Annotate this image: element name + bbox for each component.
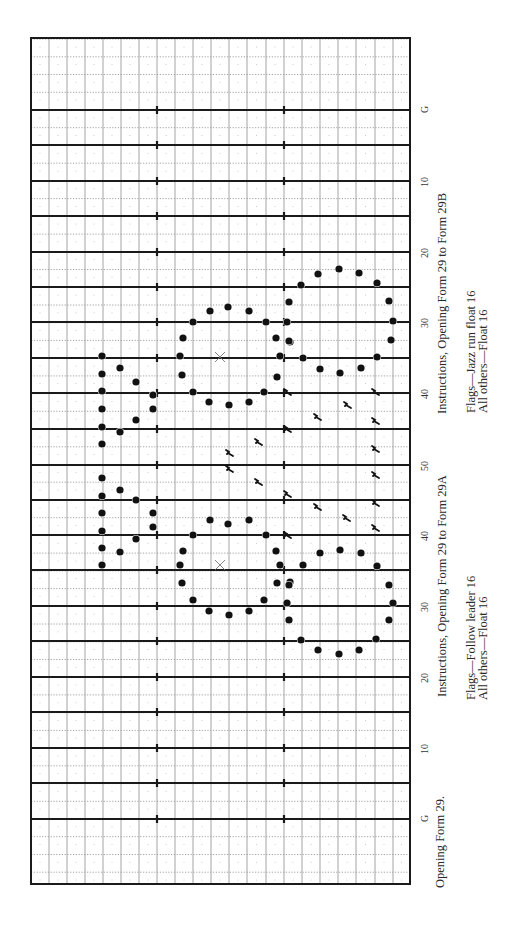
- cell-dot: [112, 224, 113, 225]
- cell-dot: [365, 348, 366, 349]
- cell-dot: [166, 685, 167, 686]
- cell-dot: [112, 188, 113, 189]
- cell-dot: [112, 348, 113, 349]
- cell-dot: [166, 348, 167, 349]
- cell-dot: [112, 419, 113, 420]
- cell-dot: [112, 490, 113, 491]
- cell-dot: [401, 649, 402, 650]
- cell-dot: [384, 330, 385, 331]
- cell-dot: [329, 82, 330, 83]
- cell-dot: [365, 543, 366, 544]
- cell-dot: [94, 490, 95, 491]
- cell-dot: [384, 82, 385, 83]
- cell-dot: [401, 472, 402, 473]
- band-member-dot: [389, 599, 396, 606]
- cell-dot: [238, 809, 239, 810]
- cell-dot: [166, 525, 167, 526]
- cell-dot: [365, 578, 366, 579]
- cell-dot: [202, 738, 203, 739]
- cell-dot: [401, 454, 402, 455]
- cell-dot: [166, 82, 167, 83]
- cell-dot: [384, 383, 385, 384]
- cell-dot: [347, 525, 348, 526]
- cell-dot: [130, 100, 131, 101]
- cell-dot: [365, 631, 366, 632]
- cell-dot: [76, 578, 77, 579]
- cell-dot: [365, 809, 366, 810]
- cell-dot: [166, 241, 167, 242]
- cell-dot: [384, 365, 385, 366]
- cell-dot: [130, 224, 131, 225]
- cell-dot: [256, 117, 257, 118]
- cell-dot: [275, 472, 276, 473]
- cell-dot: [293, 826, 294, 827]
- cell-dot: [94, 738, 95, 739]
- cell-dot: [256, 436, 257, 437]
- cell-dot: [329, 578, 330, 579]
- cell-dot: [329, 755, 330, 756]
- cell-dot: [166, 312, 167, 313]
- band-member-dot: [335, 265, 342, 272]
- band-member-dot: [225, 401, 232, 408]
- cell-dot: [166, 844, 167, 845]
- cell-dot: [238, 826, 239, 827]
- cell-dot: [184, 507, 185, 508]
- cell-dot: [130, 241, 131, 242]
- cell-dot: [184, 720, 185, 721]
- band-member-dot: [273, 373, 280, 380]
- cell-dot: [94, 365, 95, 366]
- cell-dot: [202, 401, 203, 402]
- cell-dot: [202, 419, 203, 420]
- cell-dot: [384, 525, 385, 526]
- cell-dot: [202, 241, 203, 242]
- cell-dot: [238, 738, 239, 739]
- cell-dot: [347, 419, 348, 420]
- cell-dot: [256, 330, 257, 331]
- cell-dot: [256, 507, 257, 508]
- cell-dot: [401, 188, 402, 189]
- cell-dot: [166, 330, 167, 331]
- cell-dot: [166, 826, 167, 827]
- cell-dot: [311, 312, 312, 313]
- cell-dot: [293, 560, 294, 561]
- cell-dot: [275, 525, 276, 526]
- cell-dot: [347, 82, 348, 83]
- cell-dot: [166, 365, 167, 366]
- cell-dot: [148, 773, 149, 774]
- cell-dot: [76, 82, 77, 83]
- cell-dot: [166, 277, 167, 278]
- cell-dot: [76, 720, 77, 721]
- cell-dot: [238, 383, 239, 384]
- cell-dot: [94, 667, 95, 668]
- cell-dot: [384, 844, 385, 845]
- cell-dot: [130, 773, 131, 774]
- cell-dot: [347, 153, 348, 154]
- cell-dot: [347, 383, 348, 384]
- cell-dot: [58, 312, 59, 313]
- cell-dot: [275, 862, 276, 863]
- cell-dot: [130, 383, 131, 384]
- cell-dot: [112, 82, 113, 83]
- cell-dot: [58, 649, 59, 650]
- cell-dot: [76, 295, 77, 296]
- cell-dot: [148, 135, 149, 136]
- cell-dot: [166, 436, 167, 437]
- cell-dot: [401, 490, 402, 491]
- cell-dot: [329, 365, 330, 366]
- cell-dot: [130, 46, 131, 47]
- cell-dot: [112, 312, 113, 313]
- cell-dot: [365, 667, 366, 668]
- cell-dot: [58, 507, 59, 508]
- band-member-dot: [245, 307, 252, 314]
- band-member-dot: [98, 352, 105, 359]
- cell-dot: [384, 135, 385, 136]
- cell-dot: [76, 614, 77, 615]
- cell-dot: [275, 419, 276, 420]
- cell-dot: [220, 330, 221, 331]
- cell-dot: [238, 614, 239, 615]
- cell-dot: [148, 277, 149, 278]
- cell-dot: [347, 188, 348, 189]
- cell-dot: [365, 773, 366, 774]
- cell-dot: [311, 614, 312, 615]
- cell-dot: [238, 135, 239, 136]
